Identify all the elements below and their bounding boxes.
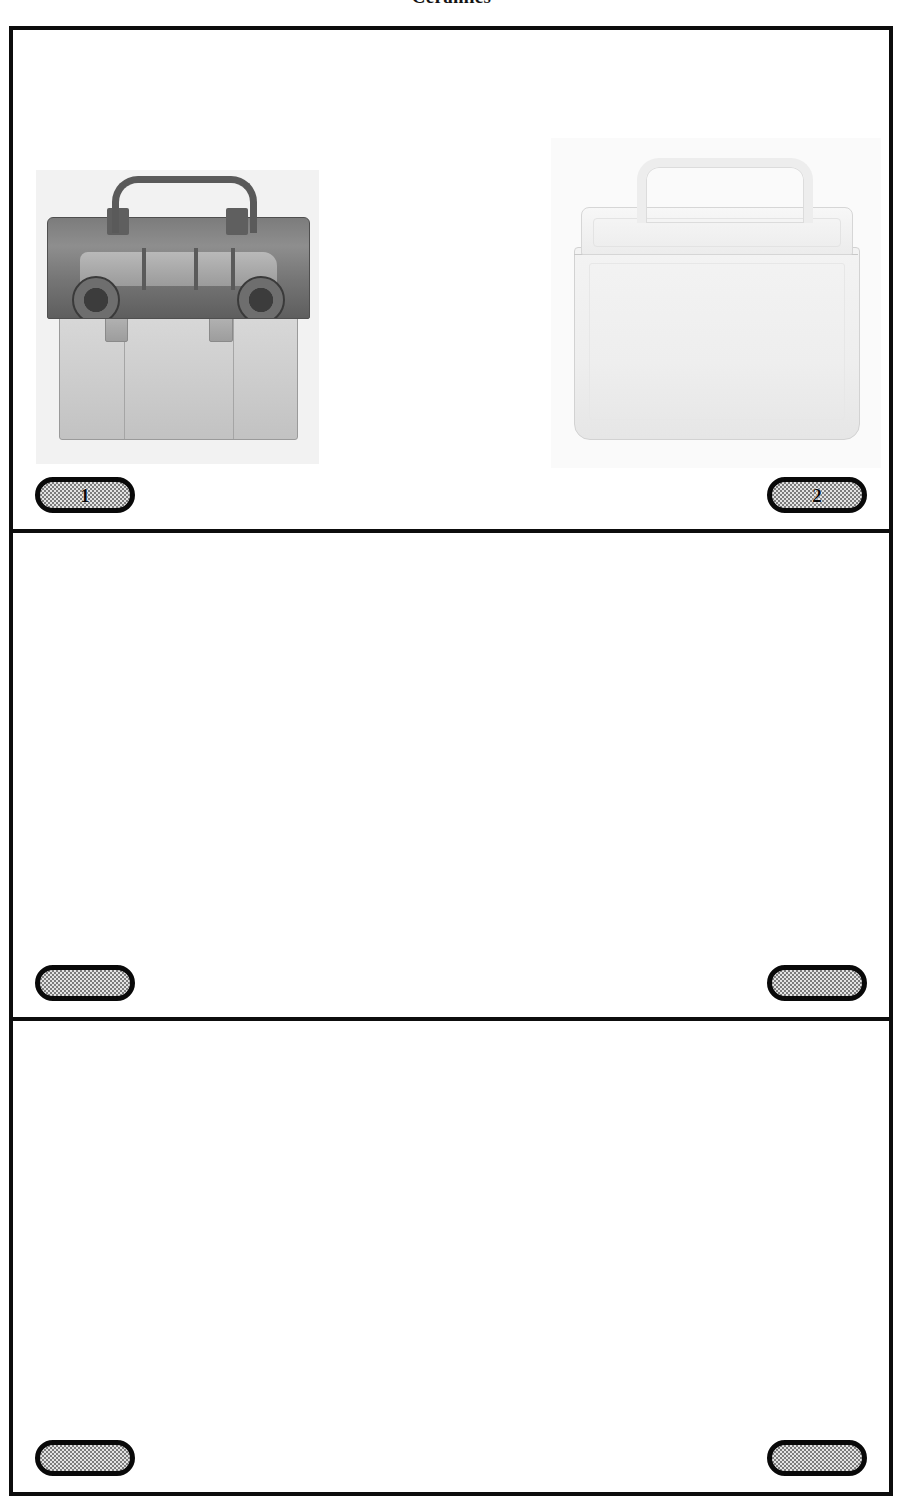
catalog-slot[interactable] bbox=[13, 1021, 451, 1492]
item-number-bubble[interactable]: 1 bbox=[35, 477, 135, 513]
lunchbox-body bbox=[574, 247, 860, 440]
lunchbox-handle bbox=[637, 158, 813, 223]
photo-inner bbox=[551, 138, 881, 468]
photo-plain-white-ceramic-lunchbox bbox=[551, 138, 881, 468]
catalog-slot[interactable]: 1 bbox=[13, 30, 451, 529]
car-wheel-relief bbox=[237, 276, 285, 319]
item-number-label: 1 bbox=[80, 486, 90, 505]
catalog-row bbox=[13, 1017, 889, 1492]
catalog-slot[interactable] bbox=[451, 1021, 889, 1492]
lunchbox-handle bbox=[112, 176, 256, 233]
photo-ceramic-station-wagon-lunchbox-cookie-jar bbox=[36, 170, 319, 464]
catalog-slot[interactable]: 2 bbox=[451, 30, 889, 529]
photo-inner bbox=[36, 170, 319, 464]
catalog-slot[interactable] bbox=[13, 533, 451, 1017]
car-pillar-relief bbox=[142, 248, 146, 290]
item-number-bubble[interactable] bbox=[767, 1440, 867, 1476]
car-wheel-relief bbox=[72, 276, 120, 319]
lunchbox-body-seam bbox=[233, 309, 234, 438]
item-number-bubble[interactable] bbox=[35, 965, 135, 1001]
item-number-bubble[interactable] bbox=[767, 965, 867, 1001]
catalog-slot[interactable] bbox=[451, 533, 889, 1017]
catalog-row bbox=[13, 529, 889, 1017]
page-title: Ceramics bbox=[0, 0, 903, 8]
car-pillar-relief bbox=[231, 248, 235, 290]
catalog-sheet-frame: 1 2 bbox=[9, 26, 893, 1496]
lunchbox-body bbox=[59, 308, 299, 439]
catalog-row: 1 2 bbox=[13, 30, 889, 529]
car-pillar-relief bbox=[194, 248, 198, 290]
item-number-bubble[interactable]: 2 bbox=[767, 477, 867, 513]
item-number-bubble[interactable] bbox=[35, 1440, 135, 1476]
lunchbox-body-inset bbox=[589, 263, 844, 420]
item-number-label: 2 bbox=[812, 486, 822, 505]
